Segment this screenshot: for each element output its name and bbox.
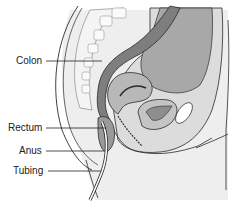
label-tubing: Tubing	[13, 165, 43, 177]
label-colon: Colon	[16, 55, 42, 67]
pelvis-illustration	[0, 0, 238, 209]
anatomy-diagram: Colon Rectum Anus Tubing	[0, 0, 238, 209]
label-rectum: Rectum	[8, 122, 42, 134]
label-anus: Anus	[19, 145, 42, 157]
